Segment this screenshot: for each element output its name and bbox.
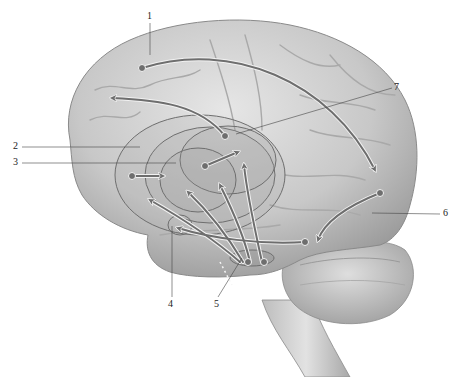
label-3: 3 [13, 156, 18, 167]
label-2: 2 [13, 140, 18, 151]
label-5: 5 [214, 298, 219, 309]
label-7: 7 [394, 81, 399, 92]
label-4: 4 [168, 298, 173, 309]
label-6: 6 [443, 207, 448, 218]
brain-diagram [0, 0, 464, 377]
label-1: 1 [147, 10, 152, 21]
